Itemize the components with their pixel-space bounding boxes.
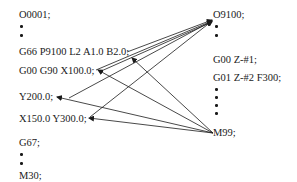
ellipsis-dot: [20, 162, 23, 165]
code-line: G67;: [19, 137, 40, 149]
ellipsis-dot: [20, 34, 23, 37]
code-line: G01 Z-#2 F300;: [213, 72, 281, 84]
code-line: M30;: [19, 170, 42, 182]
ellipsis-dot: [20, 153, 23, 156]
code-line: M99;: [213, 127, 236, 139]
ellipsis-dot: [215, 112, 218, 115]
code-line: G00 G90 X100.0;: [19, 65, 95, 77]
code-line: O9100;: [213, 9, 245, 21]
ellipsis-dot: [20, 25, 23, 28]
ellipsis-dot: [215, 104, 218, 107]
ellipsis-dot: [215, 34, 218, 37]
code-line: G00 Z-#1;: [213, 54, 257, 66]
ellipsis-dot: [215, 88, 218, 91]
code-line: X150.0 Y300.0;: [19, 113, 87, 125]
ellipsis-dot: [215, 25, 218, 28]
ellipsis-dot: [215, 96, 218, 99]
code-line: Y200.0;: [19, 91, 53, 103]
code-line: G66 P9100 L2 A1.0 B2.0;: [19, 46, 129, 58]
code-line: O0001;: [19, 9, 51, 21]
